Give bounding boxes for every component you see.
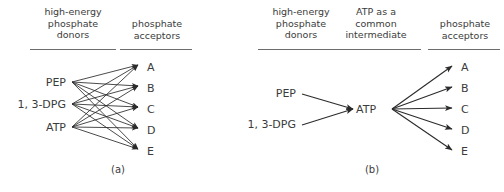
panel-a-donor-pep: PEP <box>18 77 66 88</box>
panel-a-acceptor-d: D <box>147 125 155 136</box>
panel-b-heading-intermediate-rule <box>331 49 421 50</box>
panel-a-heading-acceptors: phosphate acceptors <box>118 18 196 41</box>
panel-b-acceptor-a: A <box>461 62 469 73</box>
panel-a-heading-donors-rule <box>30 49 116 50</box>
panel-a-caption: (a) <box>88 164 148 175</box>
panel-a-donor-atp: ATP <box>18 122 66 133</box>
panel-a-acceptor-e: E <box>147 146 154 157</box>
panel-b-heading-acceptors-rule <box>428 49 500 50</box>
panel-b-acceptor-c: C <box>461 104 469 115</box>
panel-b-acceptor-e: E <box>461 146 468 157</box>
panel-b-intermediate-atp: ATP <box>356 104 386 115</box>
panel-a-acceptor-c: C <box>147 104 155 115</box>
panel-b-donor-13dpg: 1, 3-DPG <box>244 119 296 130</box>
panel-a-acceptor-a: A <box>147 62 155 73</box>
panel-b-donor-pep: PEP <box>252 88 296 99</box>
panel-a-heading-donors: high-energy phosphate donors <box>30 6 116 41</box>
panel-a-donor-13dpg: 1, 3-DPG <box>10 99 66 110</box>
panel-b-acceptor-d: D <box>461 125 469 136</box>
panel-a: high-energy phosphate donors phosphate a… <box>0 0 246 192</box>
panel-b-heading-acceptors: phosphate acceptors <box>426 18 504 41</box>
panel-b: high-energy phosphate donors ATP as a co… <box>246 0 493 192</box>
panel-b-caption: (b) <box>342 164 402 175</box>
panel-b-heading-intermediate: ATP as a common intermediate <box>328 6 424 41</box>
panel-b-acceptor-b: B <box>461 83 469 94</box>
panel-a-heading-acceptors-rule <box>120 49 192 50</box>
panel-a-acceptor-b: B <box>147 83 155 94</box>
